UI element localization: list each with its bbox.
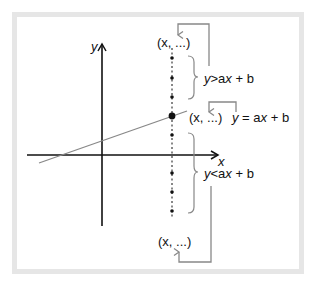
- below-inequality-label: y<ax + b: [203, 166, 254, 181]
- middle-point-label: (x, ...): [189, 110, 222, 125]
- lower-brace: [188, 133, 198, 213]
- point-above-3: [170, 95, 174, 99]
- top-point-label: (x, ...): [157, 35, 190, 50]
- upper-brace: [188, 56, 198, 99]
- point-above-1: [170, 56, 174, 60]
- point-above-2: [170, 76, 174, 80]
- on-line-equation-label: y = ax + b: [231, 110, 289, 125]
- point-below-1: [170, 133, 174, 137]
- bottom-point-label: (x, ...): [158, 234, 191, 249]
- lower-return-arrow: [179, 186, 211, 262]
- point-below-3: [170, 190, 174, 194]
- point-on-line: [169, 113, 176, 120]
- y-axis-label: y: [90, 39, 99, 54]
- point-below-4: [170, 209, 174, 213]
- point-below-2: [170, 171, 174, 175]
- above-inequality-label: y>ax + b: [203, 71, 254, 86]
- inequality-diagram: x y (x, ...) (x, ...) (x, ...) y>ax + b …: [0, 0, 318, 286]
